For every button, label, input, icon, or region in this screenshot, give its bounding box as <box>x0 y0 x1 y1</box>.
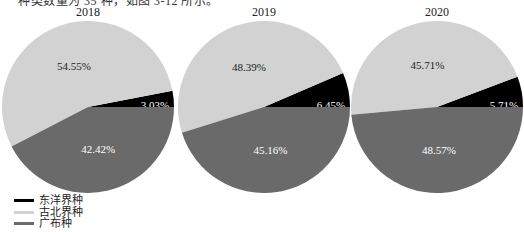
legend-swatch <box>14 222 34 225</box>
legend-swatch <box>14 211 34 214</box>
pie-2019: 6.45%48.39%45.16%2019 <box>178 5 350 193</box>
slice-label-widespread: 45.16% <box>254 144 288 156</box>
legend-item-oriental: 东洋界种 <box>14 195 83 207</box>
pie-2018: 3.03%54.55%42.42%2018 <box>2 5 174 193</box>
legend-item-widespread: 广布种 <box>14 218 83 230</box>
slice-label-widespread: 42.42% <box>81 143 115 155</box>
legend-label: 东洋界种 <box>39 195 83 207</box>
legend-swatch <box>14 199 34 202</box>
slice-label-palearctic: 45.71% <box>410 59 444 71</box>
pie-2020: 5.71%45.71%48.57%2020 <box>351 5 523 193</box>
slice-label-palearctic: 54.55% <box>57 60 91 72</box>
legend-label: 广布种 <box>39 218 72 230</box>
pie-title: 2018 <box>76 5 100 19</box>
slice-label-palearctic: 48.39% <box>232 61 266 73</box>
pie-title: 2019 <box>252 5 276 19</box>
slice-label-widespread: 48.57% <box>422 144 456 156</box>
legend: 东洋界种 古北界种 广布种 <box>14 195 83 230</box>
pie-title: 2020 <box>425 5 449 19</box>
